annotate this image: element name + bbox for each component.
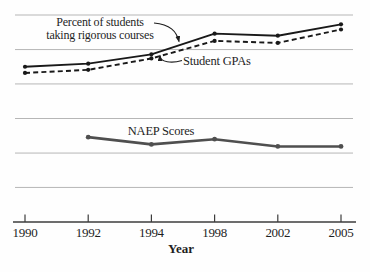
data-point-series-0 (339, 22, 343, 26)
series-label-rigorous-line2: taking rigorous courses (20, 29, 180, 42)
x-tick-label: 1998 (195, 225, 235, 241)
line-chart-figure: Percent of students taking rigorous cour… (0, 0, 370, 272)
data-point-series-0 (213, 32, 217, 36)
x-tick-label: 1990 (5, 225, 45, 241)
data-point-series-0 (276, 34, 280, 38)
series-label-rigorous: Percent of students taking rigorous cour… (20, 16, 180, 42)
data-point-series-0 (149, 52, 153, 56)
data-point-series-2 (149, 142, 154, 147)
data-point-series-1 (86, 68, 90, 72)
data-point-series-2 (275, 144, 280, 149)
data-point-series-2 (339, 144, 344, 149)
data-point-series-2 (86, 135, 91, 140)
gpa-label-arrow (160, 56, 182, 63)
x-axis-title: Year (151, 241, 211, 257)
data-point-series-1 (339, 27, 343, 31)
data-point-series-2 (212, 137, 217, 142)
data-point-series-1 (23, 71, 27, 75)
data-point-series-1 (213, 39, 217, 43)
data-point-series-0 (86, 62, 90, 66)
x-tick-label: 2005 (321, 225, 361, 241)
data-point-series-1 (149, 56, 153, 60)
x-tick-label: 1992 (68, 225, 108, 241)
series-label-gpa: Student GPAs (183, 54, 251, 69)
data-point-series-0 (23, 65, 27, 69)
x-tick-label: 1994 (131, 225, 171, 241)
data-point-series-1 (276, 41, 280, 45)
x-tick-label: 2002 (258, 225, 298, 241)
series-label-naep: NAEP Scores (111, 124, 211, 139)
